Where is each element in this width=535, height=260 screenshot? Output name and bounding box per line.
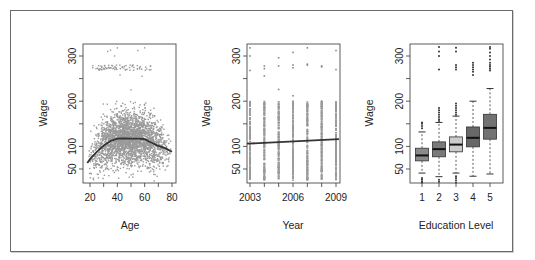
y-tick-label: 300 [394, 47, 405, 64]
box-level-1 [416, 121, 429, 183]
age-xlabel: Age [121, 219, 140, 231]
year-ylabel: Wage [200, 99, 212, 126]
box-level-3 [450, 47, 463, 184]
year-axes: 20032006200950100200300 [231, 47, 348, 203]
year-xlabel: Year [282, 219, 304, 231]
panel-age-scatter: 2040608050100200300 Wage Age [37, 44, 178, 231]
y-tick-label: 300 [231, 47, 242, 64]
y-tick-label: 50 [67, 163, 78, 175]
y-tick-label: 50 [231, 163, 242, 175]
y-tick-label: 300 [67, 47, 78, 64]
x-tick-label: 2 [436, 192, 442, 203]
age-ylabel: Wage [37, 99, 49, 126]
x-tick-label: 3 [453, 192, 459, 203]
box-level-4 [467, 62, 480, 176]
y-tick-label: 200 [231, 92, 242, 109]
education-boxes [416, 46, 497, 184]
y-tick-label: 100 [394, 138, 405, 155]
x-tick-label: 4 [470, 192, 476, 203]
x-tick-label: 40 [112, 192, 124, 203]
box-level-5 [484, 46, 497, 174]
y-tick-label: 200 [394, 92, 405, 109]
year-scatter-points [249, 47, 337, 181]
x-tick-label: 80 [166, 192, 178, 203]
age-scatter-points [88, 47, 171, 181]
panel-year-scatter: 20032006200950100200300 Wage Year [200, 44, 348, 231]
x-tick-label: 2006 [282, 192, 305, 203]
x-tick-label: 60 [139, 192, 151, 203]
y-tick-label: 100 [67, 138, 78, 155]
box-level-2 [433, 46, 446, 183]
edu-xlabel: Education Level [419, 219, 494, 231]
y-tick-label: 200 [67, 92, 78, 109]
x-tick-label: 20 [84, 192, 96, 203]
y-tick-label: 100 [231, 138, 242, 155]
education-axes: 1234550100200300 [394, 47, 493, 203]
x-tick-label: 1 [419, 192, 425, 203]
edu-ylabel: Wage [363, 99, 375, 126]
x-tick-label: 2003 [239, 192, 262, 203]
panel-education-boxplot: 1234550100200300 Wage Education Level [363, 44, 503, 231]
y-tick-label: 50 [394, 163, 405, 175]
figure-canvas: 2040608050100200300 Wage Age 20032006200… [0, 0, 535, 260]
x-tick-label: 5 [487, 192, 493, 203]
x-tick-label: 2009 [325, 192, 348, 203]
